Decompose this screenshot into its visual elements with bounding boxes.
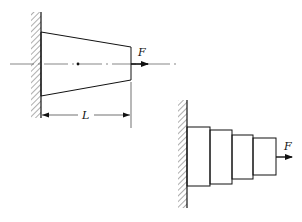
step-segment-1 xyxy=(187,127,210,186)
stepped-bar-figure: F xyxy=(178,100,292,208)
fixed-wall-hatch-b xyxy=(178,100,187,208)
fixed-wall-hatch xyxy=(31,12,41,118)
diagram-canvas: F L F xyxy=(0,0,302,222)
centroid-dot xyxy=(77,63,80,66)
force-label-b: F xyxy=(283,140,292,153)
step-segment-2 xyxy=(210,130,232,184)
force-label-a: F xyxy=(137,46,146,59)
step-segment-3 xyxy=(232,135,253,179)
length-label: L xyxy=(81,109,89,122)
step-segment-4 xyxy=(253,138,276,175)
tapered-bar-figure: F L xyxy=(10,12,180,128)
